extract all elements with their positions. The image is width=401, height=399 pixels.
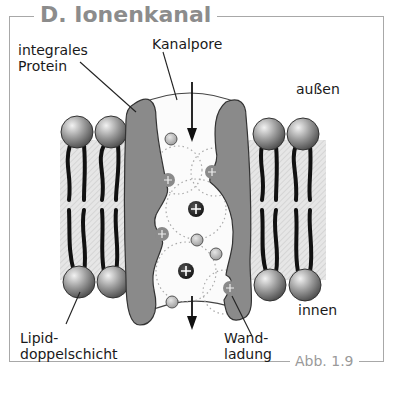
label-wall-charge: Wand- ladung (224, 330, 272, 362)
label-channel-pore: Kanalpore (152, 36, 222, 52)
label-lipid-bilayer: Lipid- doppelschicht (20, 330, 118, 362)
label-integral-protein: integrales Protein (18, 42, 88, 74)
label-inside: innen (298, 302, 337, 318)
label-outside: außen (296, 81, 340, 97)
